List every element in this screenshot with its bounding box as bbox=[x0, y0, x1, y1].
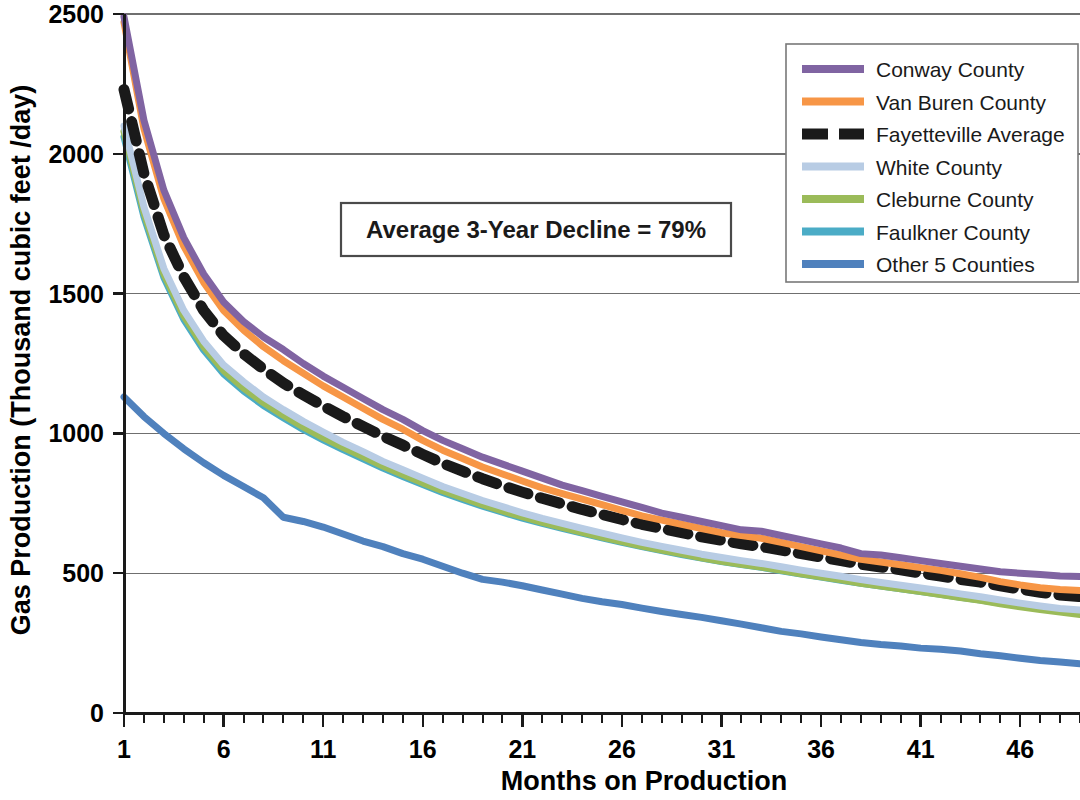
legend-item-label: Fayetteville Average bbox=[876, 123, 1065, 146]
legend-item-label: Conway County bbox=[876, 58, 1025, 81]
legend-item-label: White County bbox=[876, 156, 1003, 179]
gas-production-decline-chart: 05001000150020002500 161116212631364146 … bbox=[0, 0, 1080, 800]
legend-item-label: Other 5 Counties bbox=[876, 253, 1035, 276]
y-tick-label-2500: 2500 bbox=[48, 0, 104, 28]
y-tick-label-500: 500 bbox=[62, 559, 104, 587]
y-tick-label-0: 0 bbox=[90, 699, 104, 727]
x-tick-label-16: 16 bbox=[409, 735, 437, 763]
annotation-callout: Average 3-Year Decline = 79% bbox=[341, 203, 731, 256]
x-tick-label-46: 46 bbox=[1006, 735, 1034, 763]
y-tick-label-1500: 1500 bbox=[48, 280, 104, 308]
y-axis-title: Gas Production (Thousand cubic feet /day… bbox=[6, 85, 36, 636]
x-tick-label-21: 21 bbox=[508, 735, 536, 763]
y-tick-label-2000: 2000 bbox=[48, 140, 104, 168]
x-tick-label-6: 6 bbox=[217, 735, 231, 763]
x-tick-label-31: 31 bbox=[708, 735, 736, 763]
chart-canvas: 05001000150020002500 161116212631364146 … bbox=[0, 0, 1080, 800]
x-tick-label-26: 26 bbox=[608, 735, 636, 763]
legend-item-label: Van Buren County bbox=[876, 91, 1047, 114]
annotation-text: Average 3-Year Decline = 79% bbox=[366, 216, 706, 243]
x-tick-label-36: 36 bbox=[807, 735, 835, 763]
x-tick-label-41: 41 bbox=[907, 735, 935, 763]
x-tick-label-11: 11 bbox=[310, 735, 337, 763]
legend-item-label: Faulkner County bbox=[876, 221, 1031, 244]
chart-legend: Conway CountyVan Buren CountyFayettevill… bbox=[786, 44, 1078, 282]
x-axis-title: Months on Production bbox=[501, 766, 787, 796]
legend-item-label: Cleburne County bbox=[876, 188, 1034, 211]
y-tick-label-1000: 1000 bbox=[48, 419, 104, 447]
x-tick-label-1: 1 bbox=[117, 735, 131, 763]
